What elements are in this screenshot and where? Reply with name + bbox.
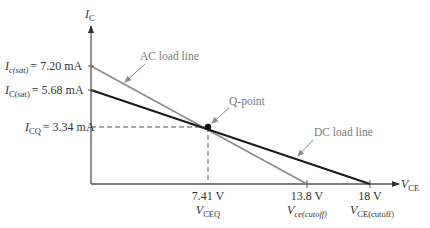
vce-cutoff-dc-value-label: 18 V — [358, 189, 382, 203]
ac-callout-arrow — [125, 64, 145, 82]
ac-load-line-callout: AC load line — [140, 50, 199, 62]
dc-load-line-callout: DC load line — [314, 126, 373, 138]
vce-cutoff-ac-value-label: 13.8 V — [291, 189, 324, 203]
x-axis-label: VCE — [401, 177, 419, 193]
q-point-marker — [205, 124, 211, 130]
q-point-callout-arrow — [212, 108, 229, 123]
q-point-callout: Q-point — [229, 95, 266, 108]
icq-label: ICQ= 3.34 mA — [24, 120, 95, 136]
dc-callout-arrow — [298, 140, 313, 156]
vce-cutoff-dc-name-label: VCE(cutoff) — [350, 203, 394, 219]
ac-load-line — [91, 66, 307, 184]
ic-sat-ac-label: Ic(sat)= 7.20 mA — [4, 59, 82, 75]
load-line-diagram: IC VCE Ic(sat)= 7.20 mA IC(sat)= 5.68 mA… — [0, 0, 430, 228]
vce-cutoff-ac-name-label: Vce(cutoff) — [287, 203, 327, 219]
vceq-name-label: VCEQ — [196, 203, 220, 219]
vceq-value-label: 7.41 V — [192, 189, 225, 203]
ic-sat-dc-label: IC(sat)= 5.68 mA — [4, 83, 84, 99]
y-axis-label: IC — [84, 7, 95, 23]
